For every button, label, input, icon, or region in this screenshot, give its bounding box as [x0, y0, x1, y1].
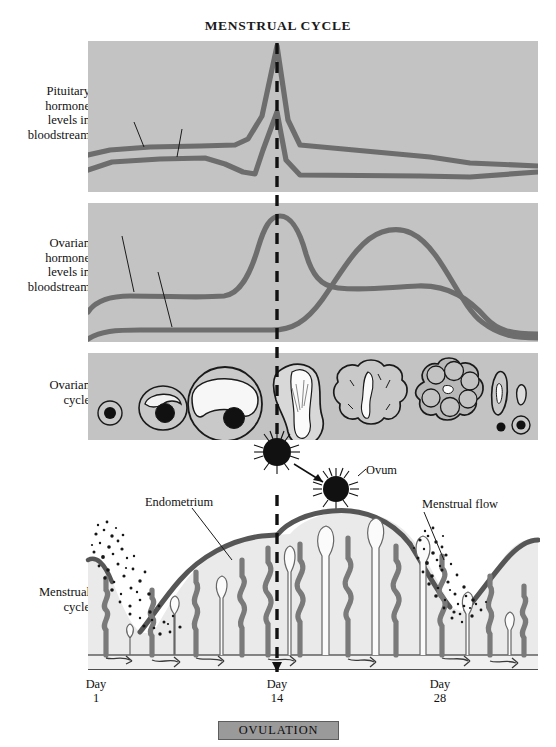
corpus-luteum-mature: [416, 358, 483, 420]
menstrual-cycle-figure: MENSTRUAL CYCLE Pituitary hormone levels…: [0, 0, 556, 747]
panel-pituitary-hormones: [88, 41, 538, 192]
corpus-luteum-early: [334, 360, 407, 424]
leader-line-ovum: [358, 469, 366, 476]
diagram-canvas: [0, 0, 556, 747]
ovum-arrow: [294, 464, 323, 482]
panel-ovarian-cycle: [88, 353, 538, 445]
follicle-graafian-mature: [188, 367, 262, 441]
ovum-release-group: [254, 431, 366, 511]
panel-menstrual-cycle: [88, 508, 538, 670]
endometrium-basal-layer: [88, 655, 538, 670]
follicle-primordial-1: [98, 401, 122, 425]
follicle-primary: [139, 386, 187, 430]
panel-background-pituitary: [88, 41, 538, 192]
endometrium-tissue-right: [274, 512, 538, 670]
endometrium-tissue-left: [88, 535, 274, 670]
corpus-albicans: [517, 385, 527, 405]
panel-ovarian-hormones: [88, 203, 538, 342]
ovum-in-transit: [313, 468, 359, 511]
